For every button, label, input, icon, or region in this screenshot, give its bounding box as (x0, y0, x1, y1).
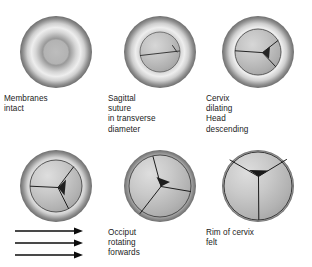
cervix-ring-early (120, 12, 200, 92)
panel-occiput-rotating: Occiput rotating forwards (108, 146, 212, 259)
figure-occiput-rotating (108, 146, 212, 226)
arrow-3 (15, 252, 83, 259)
panel-rotation-begins (4, 146, 108, 228)
panel-cervix-dilating: Cervix dilating Head descending (206, 12, 310, 135)
panel-sagittal-suture: Sagittal suture in transverse diameter (108, 12, 212, 135)
figure-rim-of-cervix (206, 146, 310, 226)
figure-cervix-dilating (206, 12, 310, 92)
figure-sagittal-suture (108, 12, 212, 92)
descent-direction-arrows (14, 227, 98, 263)
figure-membranes-intact (4, 12, 108, 92)
panel-caption: Sagittal suture in transverse diameter (108, 94, 212, 135)
fetal-head (43, 39, 69, 65)
cervix-ring-advanced (16, 146, 96, 226)
panel-rim-of-cervix: Rim of cervix felt (206, 146, 310, 248)
cervix-ring-full (218, 146, 298, 226)
fetal-head (129, 155, 191, 217)
figure-head-rotating (4, 146, 108, 226)
arrows-svg (14, 227, 98, 263)
panel-caption: Cervix dilating Head descending (206, 94, 310, 135)
cervix-ring-nearly-full (120, 146, 200, 226)
arrow-2 (15, 240, 83, 247)
panel-caption: Occiput rotating forwards (108, 228, 212, 259)
panel-caption: Membranes intact (4, 94, 108, 114)
arrow-1 (15, 228, 83, 235)
cervical-dilatation-diagram: Membranes intact Sagittal suture in tran… (0, 0, 312, 267)
cervix-ring-closed (16, 12, 96, 92)
panel-caption: Rim of cervix felt (206, 228, 310, 248)
fetal-head (30, 160, 82, 212)
panel-membranes-intact: Membranes intact (4, 12, 108, 114)
cervix-ring-dilating (218, 12, 298, 92)
